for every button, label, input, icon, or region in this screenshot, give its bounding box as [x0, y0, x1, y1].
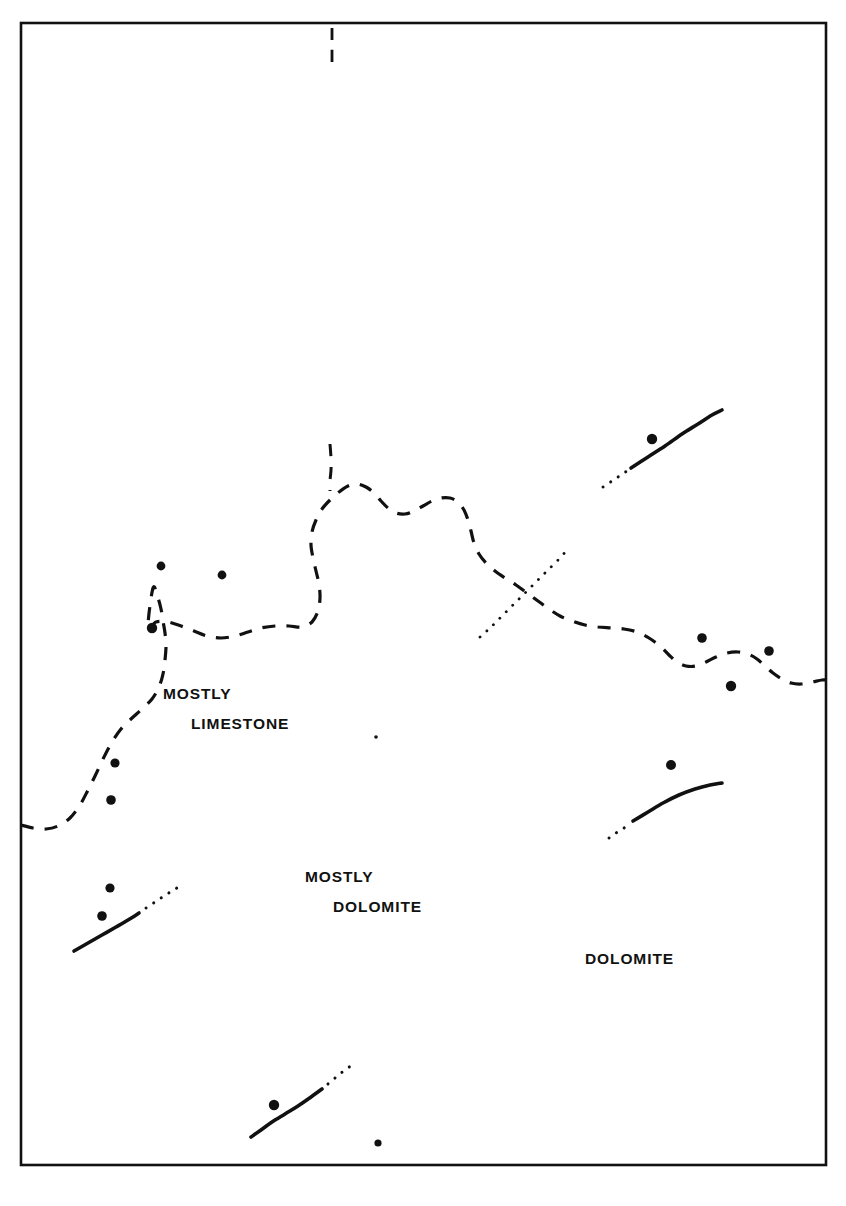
map-label-mostly-limestone: MOSTLY LIMESTONE — [163, 679, 289, 739]
map-label-mostly-dolomite-line2: DOLOMITE — [305, 892, 422, 922]
map-label-mostly-limestone-line2: LIMESTONE — [163, 709, 289, 739]
control-point — [666, 760, 676, 770]
map-label-dolomite-line1: DOLOMITE — [585, 950, 674, 967]
map-label-dolomite: DOLOMITE — [585, 944, 674, 974]
control-point — [106, 795, 116, 805]
map-canvas — [0, 0, 846, 1206]
control-point — [269, 1100, 279, 1110]
map-label-mostly-limestone-line1: MOSTLY — [163, 685, 232, 702]
geologic-map-figure: MOSTLY LIMESTONE MOSTLY DOLOMITE DOLOMIT… — [0, 0, 846, 1206]
control-point — [97, 911, 107, 921]
control-point — [647, 434, 657, 444]
control-point — [147, 623, 157, 633]
control-point — [105, 883, 114, 892]
control-point — [764, 646, 774, 656]
control-point — [110, 758, 119, 767]
control-point — [374, 1139, 381, 1146]
map-background — [0, 0, 846, 1206]
control-point — [374, 735, 378, 739]
control-point — [726, 681, 736, 691]
map-label-mostly-dolomite: MOSTLY DOLOMITE — [305, 862, 422, 922]
control-point — [697, 633, 707, 643]
map-label-mostly-dolomite-line1: MOSTLY — [305, 868, 374, 885]
control-point — [157, 562, 166, 571]
control-point — [218, 571, 227, 580]
